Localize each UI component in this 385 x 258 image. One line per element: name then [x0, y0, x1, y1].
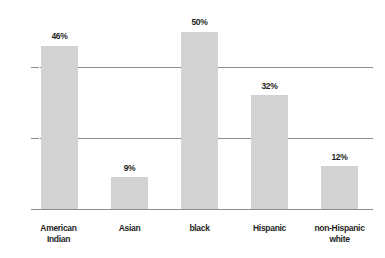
category-label-non-hispanic-white: non-Hispanic white [304, 223, 375, 245]
bar-value-black: 50% [181, 18, 218, 27]
category-label-line: non-Hispanic [304, 223, 375, 234]
bar-black[interactable] [181, 32, 218, 210]
bar-value-non-hispanic-white: 12% [321, 153, 358, 162]
bar-value-asian: 9% [111, 164, 148, 173]
category-label-american-indian: American Indian [26, 223, 91, 245]
y-tick-40 [31, 67, 39, 68]
y-tick-20 [31, 138, 39, 139]
category-label-line: Indian [26, 234, 91, 245]
bar-chart: 40% 20% 0% 46% 9% 50% 32% 12% American I… [0, 0, 385, 258]
bar-non-hispanic-white[interactable] [321, 166, 358, 209]
x-axis-baseline [31, 209, 373, 210]
plot-area: 40% 20% 0% 46% 9% 50% 32% 12% American I… [40, 10, 373, 210]
bar-asian[interactable] [111, 177, 148, 209]
category-label-line: Asian [97, 223, 162, 234]
bar-hispanic[interactable] [251, 95, 288, 209]
bar-american-indian[interactable] [41, 46, 78, 209]
category-label-line: black [167, 223, 232, 234]
category-label-black: black [167, 223, 232, 234]
category-label-hispanic: Hispanic [237, 223, 302, 234]
category-label-line: white [304, 234, 375, 245]
category-label-line: Hispanic [237, 223, 302, 234]
category-label-line: American [26, 223, 91, 234]
bar-value-american-indian: 46% [41, 32, 78, 41]
category-label-asian: Asian [97, 223, 162, 234]
bar-value-hispanic: 32% [251, 82, 288, 91]
